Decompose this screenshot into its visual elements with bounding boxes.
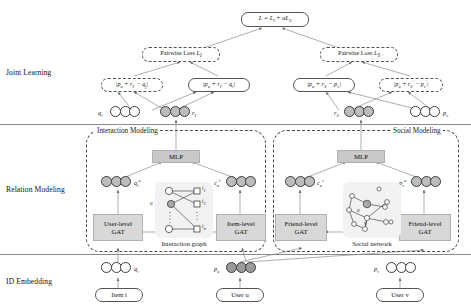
pairwise-loss-interaction-sub: I [200,52,202,58]
interaction-graph-caption: Interaction graph [152,240,216,247]
vector-cell [120,262,131,273]
vector-q-i-u [101,176,130,187]
module-social-modeling-title: Social Modeling [391,127,443,135]
vector-q-i-base [101,262,130,273]
stage-label-joint-learning: Joint Learning [6,68,51,77]
vector-cell [304,176,315,187]
gat-item-level-line2: GAT [234,228,247,236]
vector-p-v-top-label: pv [443,109,448,118]
input-user-u-label: User u [231,291,248,298]
vector-cell [429,106,440,117]
vector-q-i-base-label: qi [134,265,138,274]
vector-c-u-i-label: cui [214,178,220,188]
term-interaction-neg-box: |pu + rI' − qj| [101,78,163,92]
vector-c-u-s [285,176,314,187]
vector-cell [179,106,190,117]
gat-user-level-line1: User-level [104,220,132,228]
vector-cell [405,262,416,273]
total-loss-box: L = LI + αLS [241,12,309,27]
divider-relation-embedding [0,254,471,255]
vector-cell [245,262,256,273]
term-social-pos-text: |pu + rS − pv| [307,80,341,90]
gat-friend-level-right: Friend-level GAT [399,214,451,241]
gat-friend-level-left-line2: GAT [294,228,307,236]
interaction-graph-item-label-n: in [202,223,206,231]
vector-r-I-label: rI [192,109,196,118]
gat-friend-level-right-line2: GAT [418,228,431,236]
vector-cell [129,106,140,117]
gat-friend-level-right-line1: Friend-level [408,220,441,228]
pairwise-loss-social-sub: S [377,52,380,58]
divider-joint-relation [0,124,471,125]
figure-canvas: Joint Learning Relation Modeling ID Embe… [0,0,471,307]
input-item-i-label: Item i [111,291,127,298]
input-user-u[interactable]: User u [216,288,264,302]
term-interaction-pos-box: |pu + rI − qi| [188,78,250,92]
mlp-interaction: MLP [152,150,200,163]
input-user-v-label: User v [391,291,408,298]
vector-r-S [344,106,373,117]
mlp-social-label: MLP [354,153,368,161]
vector-q-i [110,106,139,117]
vector-c-u-i [226,176,255,187]
social-network-panel [343,182,401,238]
vector-p-v-base [386,262,415,273]
vector-p-u-base-label: pu [214,265,219,274]
mlp-interaction-label: MLP [169,153,183,161]
gat-user-level: User-level GAT [93,214,143,241]
stage-label-id-embedding: ID Embedding [6,277,52,286]
gat-item-level-line1: Item-level [227,220,255,228]
vector-cell [245,176,256,187]
social-network-caption: Social network [342,240,402,247]
vector-p-v-base-label: pv [374,265,379,274]
vector-p-u-base [226,262,255,273]
social-network-center-node-label: u [357,207,360,213]
interaction-graph-item-label-1: i1 [202,185,206,193]
term-interaction-neg-text: |pu + rI' − qj| [116,80,148,90]
gat-friend-level-left: Friend-level GAT [275,214,327,241]
vector-q-i-label: qi [98,109,102,118]
term-social-neg-box: |pu + rS' − pv'| [379,78,443,92]
module-interaction-modeling-title: Interaction Modeling [95,127,160,135]
input-user-v[interactable]: User v [376,288,424,302]
vector-c-u-s-label: cus [317,178,324,188]
gat-friend-level-left-line1: Friend-level [284,220,317,228]
vector-p-v-top [410,106,439,117]
vector-cell [120,176,131,187]
pairwise-loss-interaction-label: Pairwise Loss [160,49,195,56]
gat-item-level: Item-level GAT [216,214,266,241]
pairwise-loss-social-label: Pairwise Loss [338,49,373,56]
term-social-pos-box: |pu + rS − pv| [293,78,355,92]
vector-cell [363,106,374,117]
vector-cell [430,176,441,187]
vector-q-i-u-label: qiu [134,178,141,188]
social-network-secondary-node-label: v [364,220,366,226]
interaction-graph-item-label-2: i2 [202,198,206,206]
stage-label-relation-modeling: Relation Modeling [6,185,65,194]
mlp-social: MLP [337,150,385,163]
interaction-graph-user-node-label: u [150,200,153,206]
term-interaction-pos-text: |pu + rI − qi| [203,80,235,90]
input-item-i[interactable]: Item i [95,288,143,302]
total-loss-text: L = LI + αLS [259,14,292,24]
pairwise-loss-interaction-box: Pairwise Loss LI [142,47,220,62]
vector-p-v-u [411,176,440,187]
vector-r-I [160,106,189,117]
term-social-neg-text: |pu + rS' − pv'| [394,80,429,90]
gat-user-level-line2: GAT [111,228,124,236]
vector-r-S-label: rS [334,109,339,118]
pairwise-loss-social-box: Pairwise Loss LS [320,47,398,62]
